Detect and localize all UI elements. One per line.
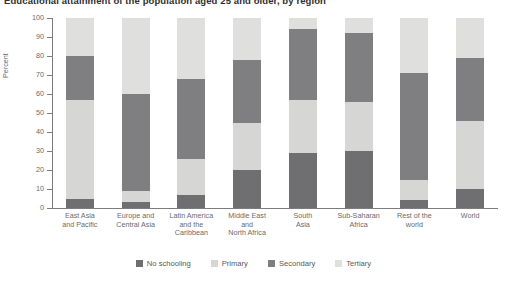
bar-group[interactable] — [122, 18, 150, 208]
y-axis-tick: 30 — [47, 151, 52, 152]
legend-label: Secondary — [279, 259, 315, 268]
y-axis-tick: 50 — [47, 113, 52, 114]
x-axis-category-label: South Asia — [275, 212, 331, 229]
bar-segment-no-schooling[interactable] — [66, 199, 94, 209]
legend-swatch-icon — [136, 260, 143, 267]
bar-group[interactable] — [66, 18, 94, 208]
y-axis-tick: 20 — [47, 170, 52, 171]
plot-area: 0102030405060708090100 East Asia and Pac… — [52, 18, 500, 208]
bar-segment-secondary[interactable] — [289, 29, 317, 99]
y-axis-tick: 100 — [47, 18, 52, 19]
bar-segment-no-schooling[interactable] — [122, 202, 150, 208]
y-axis-tick-label: 30 — [22, 146, 44, 155]
stacked-bar[interactable] — [456, 18, 484, 208]
x-axis-category-label: East Asia and Pacific — [52, 212, 108, 229]
bar-segment-no-schooling[interactable] — [456, 189, 484, 208]
bar-segment-no-schooling[interactable] — [289, 153, 317, 208]
y-axis-tick-label: 0 — [22, 203, 44, 212]
bar-segment-tertiary[interactable] — [66, 18, 94, 56]
bar-group[interactable] — [400, 18, 428, 208]
chart-container: Educational attainment of the population… — [0, 0, 507, 287]
bar-segment-tertiary[interactable] — [233, 18, 261, 60]
y-axis-tick-label: 50 — [22, 108, 44, 117]
x-axis-category-label: Sub-Saharan Africa — [331, 212, 387, 229]
bar-segment-no-schooling[interactable] — [177, 195, 205, 208]
y-axis-tick-label: 60 — [22, 89, 44, 98]
y-axis-tick-label: 20 — [22, 165, 44, 174]
stacked-bar[interactable] — [122, 18, 150, 208]
y-axis-tick: 70 — [47, 75, 52, 76]
legend-label: Primary — [222, 259, 248, 268]
bar-segment-primary[interactable] — [400, 180, 428, 201]
stacked-bar[interactable] — [233, 18, 261, 208]
bar-segment-secondary[interactable] — [66, 56, 94, 100]
y-axis-tick-label: 80 — [22, 51, 44, 60]
x-axis-line — [52, 208, 498, 209]
legend-item-tertiary[interactable]: Tertiary — [335, 259, 371, 268]
bar-group[interactable] — [233, 18, 261, 208]
chart-title-strip: Educational attainment of the population… — [0, 0, 507, 9]
y-axis-line — [52, 18, 53, 208]
x-axis-category-label: Middle East and North Africa — [219, 212, 275, 238]
bar-segment-primary[interactable] — [233, 123, 261, 171]
legend-label: No schooling — [147, 259, 191, 268]
bar-segment-tertiary[interactable] — [456, 18, 484, 58]
bar-segment-primary[interactable] — [177, 159, 205, 195]
bar-segment-primary[interactable] — [122, 191, 150, 202]
y-axis-tick: 90 — [47, 37, 52, 38]
legend-swatch-icon — [335, 260, 342, 267]
legend-item-secondary[interactable]: Secondary — [268, 259, 315, 268]
bar-group[interactable] — [456, 18, 484, 208]
x-axis-category-label: World — [442, 212, 498, 221]
bar-segment-secondary[interactable] — [345, 33, 373, 101]
legend-swatch-icon — [211, 260, 218, 267]
bar-segment-tertiary[interactable] — [289, 18, 317, 29]
bar-segment-tertiary[interactable] — [345, 18, 373, 33]
bar-segment-secondary[interactable] — [233, 60, 261, 123]
bar-group[interactable] — [345, 18, 373, 208]
bar-segment-tertiary[interactable] — [122, 18, 150, 94]
x-axis-category-label: Rest of the world — [387, 212, 443, 229]
y-axis-tick: 40 — [47, 132, 52, 133]
bar-segment-secondary[interactable] — [456, 58, 484, 121]
legend-label: Tertiary — [346, 259, 371, 268]
y-axis-tick-label: 100 — [22, 13, 44, 22]
legend-item-no-schooling[interactable]: No schooling — [136, 259, 191, 268]
y-axis-tick-label: 10 — [22, 184, 44, 193]
x-axis-category-label: Europe and Central Asia — [108, 212, 164, 229]
legend-swatch-icon — [268, 260, 275, 267]
y-axis-tick: 80 — [47, 56, 52, 57]
bar-segment-secondary[interactable] — [177, 79, 205, 159]
stacked-bar[interactable] — [66, 18, 94, 208]
bar-segment-no-schooling[interactable] — [400, 200, 428, 208]
y-axis-tick-label: 70 — [22, 70, 44, 79]
bar-segment-secondary[interactable] — [122, 94, 150, 191]
bar-segment-secondary[interactable] — [400, 73, 428, 179]
chart-legend: No schoolingPrimarySecondaryTertiary — [0, 259, 507, 268]
bar-group[interactable] — [177, 18, 205, 208]
bar-segment-primary[interactable] — [345, 102, 373, 151]
chart-title: Educational attainment of the population… — [4, 0, 326, 6]
bar-segment-primary[interactable] — [66, 100, 94, 199]
bar-segment-primary[interactable] — [456, 121, 484, 189]
y-axis-tick-label: 40 — [22, 127, 44, 136]
y-axis-tick-label: 90 — [22, 32, 44, 41]
legend-item-primary[interactable]: Primary — [211, 259, 248, 268]
stacked-bar[interactable] — [400, 18, 428, 208]
y-axis-tick: 0 — [47, 208, 52, 209]
bar-segment-no-schooling[interactable] — [233, 170, 261, 208]
stacked-bar[interactable] — [177, 18, 205, 208]
stacked-bar[interactable] — [289, 18, 317, 208]
bar-segment-tertiary[interactable] — [400, 18, 428, 73]
stacked-bar[interactable] — [345, 18, 373, 208]
y-axis-tick: 60 — [47, 94, 52, 95]
y-axis-tick: 10 — [47, 189, 52, 190]
bar-segment-tertiary[interactable] — [177, 18, 205, 79]
bar-segment-primary[interactable] — [289, 100, 317, 153]
bar-segment-no-schooling[interactable] — [345, 151, 373, 208]
y-axis-title: Percent — [1, 64, 10, 78]
x-axis-category-label: Latin America and the Caribbean — [164, 212, 220, 238]
bar-group[interactable] — [289, 18, 317, 208]
